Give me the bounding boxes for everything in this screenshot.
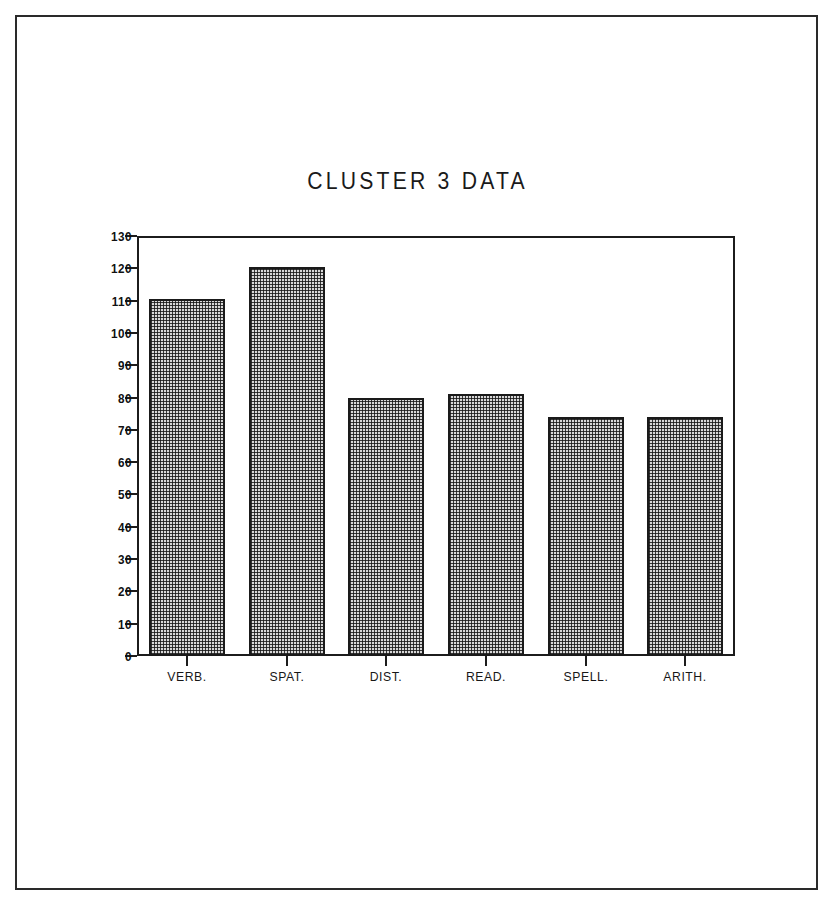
x-axis-label: VERB. — [130, 670, 243, 683]
x-axis-tick — [485, 656, 487, 666]
y-axis-label: 10 — [69, 617, 132, 630]
plot-frame — [137, 236, 735, 656]
y-axis-label: 80 — [69, 391, 132, 404]
bar — [647, 417, 723, 656]
bar — [548, 417, 624, 656]
bar — [348, 398, 424, 656]
y-axis-label: 70 — [69, 423, 132, 436]
y-axis-label: 40 — [69, 520, 132, 533]
y-axis-label: 20 — [69, 585, 132, 598]
y-axis-label: 100 — [69, 326, 132, 339]
x-axis-label: SPELL. — [529, 670, 642, 683]
y-axis-label: 60 — [69, 456, 132, 469]
chart-title: CLUSTER 3 DATA — [33, 168, 801, 195]
y-axis-label: 30 — [69, 553, 132, 566]
x-axis-tick — [286, 656, 288, 666]
y-axis-label: 90 — [69, 359, 132, 372]
x-axis-label: SPAT. — [230, 670, 343, 683]
bar — [149, 299, 225, 656]
x-axis-label: ARITH. — [629, 670, 742, 683]
bar — [448, 394, 524, 656]
y-axis-label: 120 — [69, 262, 132, 275]
y-axis-label: 130 — [69, 230, 132, 243]
x-axis-tick — [186, 656, 188, 666]
bar — [249, 267, 325, 656]
y-axis-label: 110 — [69, 294, 132, 307]
x-axis-tick — [684, 656, 686, 666]
y-axis-label: 50 — [69, 488, 132, 501]
chart-page: CLUSTER 3 DATA 1301201101009080706050403… — [0, 0, 835, 912]
x-axis-label: READ. — [429, 670, 542, 683]
y-axis-label: 0 — [69, 650, 132, 663]
x-axis-tick — [585, 656, 587, 666]
x-axis-tick — [385, 656, 387, 666]
plot-area: 1301201101009080706050403020100 VERB.SPA… — [137, 236, 735, 656]
x-axis-label: DIST. — [330, 670, 443, 683]
